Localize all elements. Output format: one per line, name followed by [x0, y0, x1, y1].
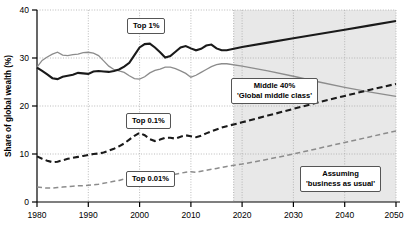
x-tick-label-1980: 1980 — [28, 210, 47, 220]
callout-assumption-line2: 'business as usual' — [306, 179, 375, 189]
y-tick-label-0: 0 — [24, 197, 29, 207]
y-tick-label-20: 20 — [20, 101, 30, 111]
callout-top001-line1: Top 0.01% — [132, 174, 169, 183]
callout-assumption: Assuming 'business as usual' — [300, 166, 381, 192]
callout-top01-line1: Top 0.1% — [132, 116, 165, 125]
callout-top1: Top 1% — [127, 18, 165, 34]
x-axis-ticks — [37, 202, 396, 207]
x-tick-label-2020: 2020 — [233, 210, 252, 220]
callout-top01: Top 0.1% — [126, 113, 171, 129]
x-tick-label-2050: 2050 — [385, 210, 404, 220]
callout-middle40-line2: 'Global middle class' — [237, 91, 312, 101]
wealth-share-chart: 40 30 20 10 0 1980 1990 2000 2010 2020 2… — [0, 0, 406, 232]
x-tick-label-1990: 1990 — [79, 210, 98, 220]
x-tick-label-2000: 2000 — [130, 210, 149, 220]
x-tick-label-2010: 2010 — [181, 210, 200, 220]
callout-middle40-line1: Middle 40% — [254, 81, 295, 90]
x-tick-label-2030: 2030 — [284, 210, 303, 220]
y-tick-label-10: 10 — [20, 149, 30, 159]
callout-top001: Top 0.01% — [126, 171, 175, 187]
callout-assumption-line1: Assuming — [322, 169, 359, 178]
x-tick-label-2040: 2040 — [335, 210, 354, 220]
y-tick-label-40: 40 — [20, 5, 30, 15]
y-axis-title: Share of global wealth (%) — [4, 55, 13, 157]
y-axis-ticks — [32, 10, 37, 202]
callout-top1-line1: Top 1% — [133, 21, 159, 30]
chart-canvas: 40 30 20 10 0 1980 1990 2000 2010 2020 2… — [0, 0, 406, 232]
y-tick-label-30: 30 — [20, 53, 30, 63]
callout-middle40: Middle 40% 'Global middle class' — [231, 78, 318, 104]
